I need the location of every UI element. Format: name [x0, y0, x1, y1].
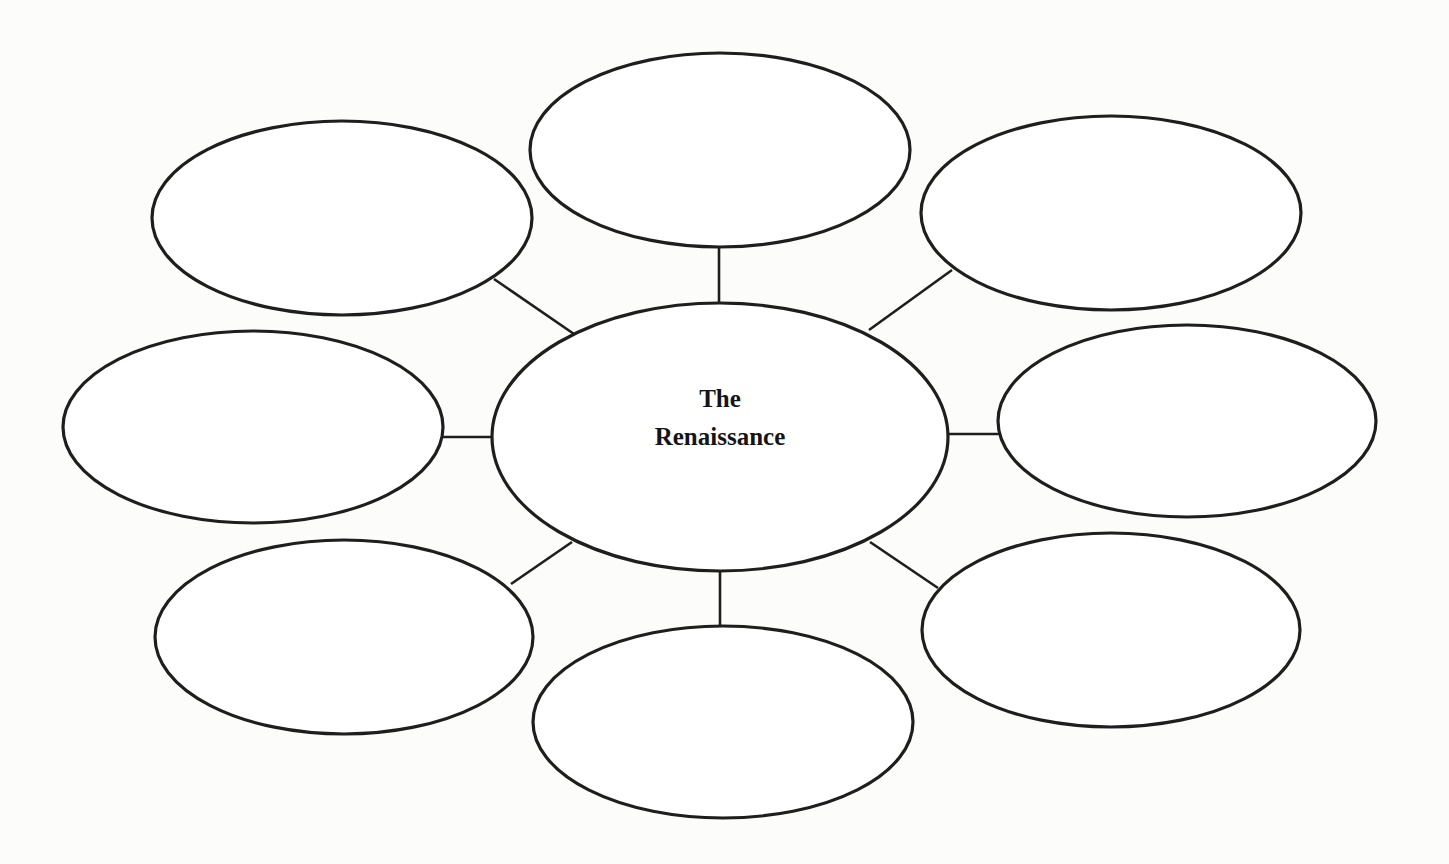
bubble-bottom-right — [922, 533, 1300, 727]
connector-bottom-right — [870, 542, 938, 588]
center-title-line2: Renaissance — [560, 418, 880, 456]
center-title: The Renaissance — [560, 380, 880, 456]
bubble-top-left — [152, 121, 532, 315]
connector-top-right — [869, 270, 952, 330]
bubble-top — [530, 53, 910, 247]
bubble-right — [998, 325, 1376, 517]
center-title-line1: The — [560, 380, 880, 418]
connector-bottom-left — [511, 542, 572, 584]
bubble-top-right — [921, 116, 1301, 310]
bubble-bottom-left — [155, 540, 533, 734]
bubble-left — [63, 331, 443, 523]
bubble-bottom — [533, 626, 913, 818]
connector-top-left — [494, 279, 574, 334]
graphic-organizer-canvas: The Renaissance — [0, 0, 1449, 864]
